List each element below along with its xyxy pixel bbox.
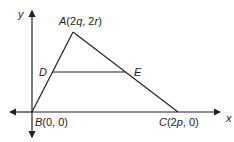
triangle-diagram: y x A(2q, 2r) D E B(0, 0) C(2p, 0) xyxy=(0,0,234,142)
point-b-label: B(0, 0) xyxy=(35,116,68,128)
point-e-label: E xyxy=(134,66,142,78)
point-a-label: A(2q, 2r) xyxy=(58,15,102,27)
point-c-label: C(2p, 0) xyxy=(159,116,199,128)
point-d-label: D xyxy=(39,66,47,78)
x-axis-label: x xyxy=(225,112,232,124)
y-axis-label: y xyxy=(17,8,25,20)
